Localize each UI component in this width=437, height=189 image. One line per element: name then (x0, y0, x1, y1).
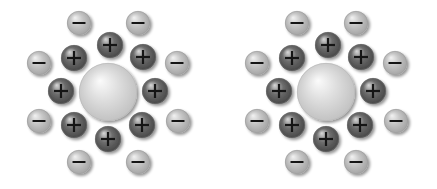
negative-ion (27, 51, 51, 75)
negative-ion (344, 150, 368, 174)
negative-ion (285, 150, 309, 174)
negative-ion (285, 11, 309, 35)
positive-ion (279, 45, 305, 71)
positive-ion (313, 126, 339, 152)
negative-ion (166, 109, 190, 133)
negative-ion (383, 51, 407, 75)
negative-ion (27, 109, 51, 133)
right-particle-cluster-core (297, 63, 355, 121)
left-particle-cluster-core (79, 63, 137, 121)
positive-ion (130, 44, 156, 70)
negative-ion (165, 51, 189, 75)
positive-ion (95, 126, 121, 152)
positive-ion (61, 45, 87, 71)
positive-ion (279, 112, 305, 138)
positive-ion (61, 112, 87, 138)
positive-ion (348, 44, 374, 70)
negative-ion (126, 150, 150, 174)
colloid-core (297, 63, 355, 121)
positive-ion (97, 32, 123, 58)
negative-ion (67, 150, 91, 174)
diagram-root (0, 0, 437, 189)
positive-ion (360, 78, 386, 104)
colloid-core (79, 63, 137, 121)
negative-ion (384, 109, 408, 133)
negative-ion (344, 11, 368, 35)
negative-ion (126, 11, 150, 35)
negative-ion (245, 109, 269, 133)
right-particle-cluster (218, 0, 437, 189)
positive-ion (48, 78, 74, 104)
negative-ion (245, 51, 269, 75)
positive-ion (347, 112, 373, 138)
left-particle-cluster (0, 0, 219, 189)
positive-ion (129, 112, 155, 138)
positive-ion (266, 78, 292, 104)
negative-ion (67, 11, 91, 35)
positive-ion (142, 78, 168, 104)
right-particle-cluster-canvas (218, 0, 437, 189)
left-particle-cluster-canvas (0, 0, 219, 189)
positive-ion (315, 32, 341, 58)
